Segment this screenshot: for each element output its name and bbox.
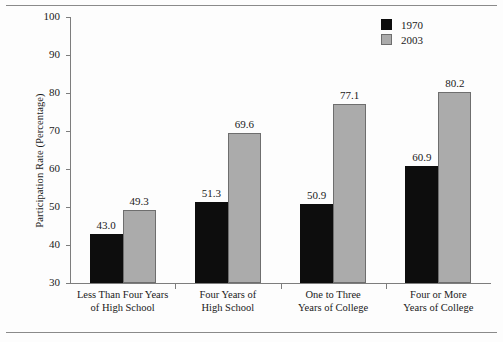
category-label-line: Four or More <box>386 289 491 302</box>
bar-2003-2[interactable] <box>228 133 261 283</box>
y-axis-tick-label: 70 <box>26 125 60 136</box>
bar-2003-3[interactable] <box>333 104 366 283</box>
chart-legend: 19702003 <box>381 18 423 48</box>
bar-chart-figure: Participation Rate (Percentage) 30405060… <box>0 0 503 342</box>
legend-item-label: 1970 <box>401 19 423 31</box>
y-axis-tick-label: 100 <box>26 11 60 22</box>
category-label-line: of High School <box>70 302 175 315</box>
plot-area: 43.049.351.369.650.977.160.980.2 <box>70 17 491 283</box>
bar-1970-1[interactable] <box>90 234 123 283</box>
bar-value-label: 49.3 <box>117 195 162 207</box>
legend-item-1970[interactable]: 1970 <box>381 18 423 31</box>
category-label-line: High School <box>175 302 280 315</box>
bar-1970-2[interactable] <box>195 202 228 283</box>
category-label-line: Years of College <box>281 302 386 315</box>
y-axis-tick-label: 40 <box>26 239 60 250</box>
bar-value-label: 80.2 <box>432 77 477 89</box>
bottom-divider-rule <box>6 332 497 333</box>
category-label-2: Four Years ofHigh School <box>175 289 280 314</box>
bar-value-label: 69.6 <box>222 118 267 130</box>
category-label-line: Less Than Four Years <box>70 289 175 302</box>
legend-item-2003[interactable]: 2003 <box>381 33 423 46</box>
y-axis-tick-label: 60 <box>26 163 60 174</box>
y-axis-tick-label: 90 <box>26 49 60 60</box>
y-axis-tick-label: 50 <box>26 201 60 212</box>
y-axis-tick <box>66 283 71 284</box>
bar-2003-1[interactable] <box>123 210 156 283</box>
y-axis-tick-label: 30 <box>26 277 60 288</box>
legend-item-label: 2003 <box>401 34 423 46</box>
bar-1970-3[interactable] <box>300 204 333 283</box>
bar-1970-4[interactable] <box>405 166 438 283</box>
category-label-line: Years of College <box>386 302 491 315</box>
top-divider-rule <box>6 5 497 6</box>
bar-2003-4[interactable] <box>438 92 471 283</box>
category-label-line: One to Three <box>281 289 386 302</box>
black-square-swatch <box>381 19 392 30</box>
category-label-4: Four or MoreYears of College <box>386 289 491 314</box>
gray-square-swatch <box>381 34 392 45</box>
category-label-3: One to ThreeYears of College <box>281 289 386 314</box>
bar-value-label: 77.1 <box>327 89 372 101</box>
category-label-line: Four Years of <box>175 289 280 302</box>
y-axis-tick-label: 80 <box>26 87 60 98</box>
category-label-1: Less Than Four Yearsof High School <box>70 289 175 314</box>
